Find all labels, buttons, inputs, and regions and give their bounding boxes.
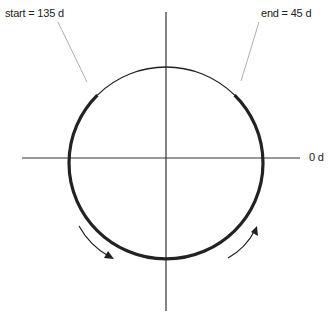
start-leader-line [58,22,87,82]
start-label: start = 135 d [5,7,64,19]
end-leader-line [241,22,259,81]
end-label: end = 45 d [261,7,311,19]
zero-label: 0 d [309,151,324,163]
arrow-left-curve [79,226,110,257]
arc-diagram [0,0,332,316]
